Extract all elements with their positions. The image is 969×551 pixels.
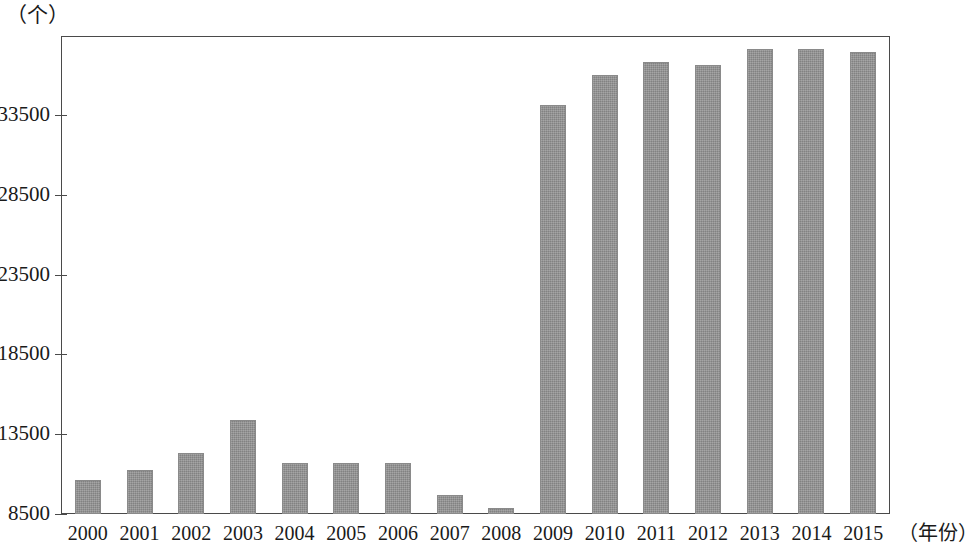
bar-2006: [385, 463, 411, 514]
y-tick-mark: [55, 275, 67, 276]
bar-2005: [333, 463, 359, 514]
y-tick-label: 33500: [0, 104, 50, 125]
bar-2000: [75, 480, 101, 514]
y-tick-mark: [55, 514, 67, 515]
bar-2010: [592, 75, 618, 514]
x-tick-label-2015: 2015: [833, 521, 893, 545]
bar-2013: [747, 49, 773, 514]
bar-2012: [695, 65, 721, 514]
bar-2002: [178, 453, 204, 514]
bar-2009: [540, 105, 566, 514]
bar-2015: [850, 52, 876, 514]
y-tick-mark: [55, 115, 67, 116]
y-tick-label: 23500: [0, 264, 50, 285]
bar-2001: [127, 470, 153, 514]
x-axis-unit-label: （年份）: [898, 521, 969, 545]
y-tick-mark: [55, 354, 67, 355]
y-tick-mark: [55, 434, 67, 435]
bars-layer: [62, 37, 889, 514]
bar-2004: [282, 463, 308, 514]
y-tick-mark: [55, 195, 67, 196]
bar-2003: [230, 420, 256, 514]
y-tick-label: 8500: [8, 503, 50, 524]
bar-2014: [798, 49, 824, 514]
bar-2008: [488, 508, 514, 514]
bar-2007: [437, 495, 463, 514]
y-axis-unit-label: （个）: [6, 2, 69, 28]
y-tick-label: 28500: [0, 184, 50, 205]
y-tick-label: 18500: [0, 343, 50, 364]
y-tick-label: 13500: [0, 423, 50, 444]
bar-2011: [643, 62, 669, 514]
plot-area: [62, 37, 889, 514]
